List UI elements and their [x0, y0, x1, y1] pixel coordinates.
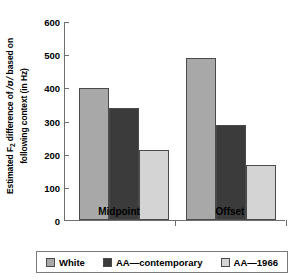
y-axis-title-line1: Estimated F2 difference of /ʊ/ based on: [5, 37, 19, 193]
y-tick-500: 500: [31, 50, 65, 60]
y-tick-600: 600: [31, 17, 65, 27]
y-tick-100: 100: [31, 183, 65, 193]
plot-area: 600 500 400 300 200 100 0: [64, 22, 285, 221]
legend-swatch-white-icon: [46, 258, 55, 267]
legend-label-aa1966: AA—1966: [234, 257, 278, 268]
y-tick-mark-400: [65, 88, 69, 89]
bar-group-midpoint: [73, 22, 175, 220]
legend-item-aa1966: AA—1966: [221, 257, 278, 268]
legend-item-contemporary: AA—contemporary: [103, 257, 203, 268]
ipa-symbol: /ʊ/: [5, 76, 15, 88]
y-tick-400: 400: [31, 83, 65, 93]
legend-item-white: White: [46, 257, 85, 268]
y-tick-mark-600: [65, 22, 69, 23]
y-tick-mark-100: [65, 188, 69, 189]
y-tick-300: 300: [31, 117, 65, 127]
y-tick-mark-200: [65, 155, 69, 156]
y-axis-subscript: 2: [9, 143, 16, 147]
chart-legend: White AA—contemporary AA—1966: [36, 251, 288, 273]
y-tick-200: 200: [31, 150, 65, 160]
legend-label-contemporary: AA—contemporary: [116, 257, 203, 268]
bar-midpoint-contemporary: [109, 108, 139, 220]
bar-group-offset: [180, 22, 282, 220]
y-tick-0: 0: [31, 216, 65, 226]
bar-chart-figure: Estimated F2 difference of /ʊ/ based on …: [0, 0, 305, 280]
legend-swatch-aa1966-icon: [221, 258, 230, 267]
y-axis-title-line2: following context (in Hz): [19, 37, 30, 193]
x-axis-separator: [175, 220, 176, 226]
y-tick-mark-300: [65, 122, 69, 123]
x-category-midpoint: Midpoint: [64, 206, 174, 217]
legend-label-white: White: [59, 257, 85, 268]
y-axis-title: Estimated F2 difference of /ʊ/ based on …: [0, 8, 34, 223]
bar-midpoint-white: [79, 88, 109, 220]
legend-swatch-contemporary-icon: [103, 258, 112, 267]
x-axis-end-tick: [286, 220, 287, 226]
bar-offset-white: [186, 58, 216, 221]
y-tick-mark-500: [65, 55, 69, 56]
x-category-offset: Offset: [175, 206, 285, 217]
